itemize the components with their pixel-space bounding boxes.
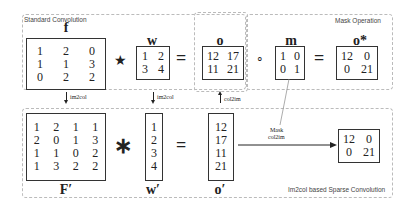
matrix-result: 120021 [338, 129, 380, 163]
matrix-F-prime: 1211201311021322 [26, 113, 106, 181]
matrix-cell: 0 [339, 146, 359, 159]
matrix-cell: 4 [146, 160, 162, 173]
label-F-prime: F′ [58, 182, 74, 198]
mask-col2im-label: col2im [268, 134, 285, 140]
matrix-cell: 2 [86, 160, 106, 173]
matrix-cell: 3 [47, 160, 67, 173]
matrix-cell: 21 [359, 146, 379, 159]
matrix-o-prime: 12171121 [208, 113, 234, 181]
label-w-prime: w′ [145, 182, 161, 198]
mult-operator: ∗ [114, 133, 132, 159]
label-o-prime: o′ [210, 182, 230, 198]
mask-label: Mask [270, 127, 283, 133]
matrix-cell: 1 [27, 160, 47, 173]
matrix-cell: 21 [209, 160, 233, 173]
matrix-w-prime: 1234 [145, 113, 163, 181]
matrix-cell: 2 [66, 160, 86, 173]
equals-operator-3: = [176, 135, 186, 156]
